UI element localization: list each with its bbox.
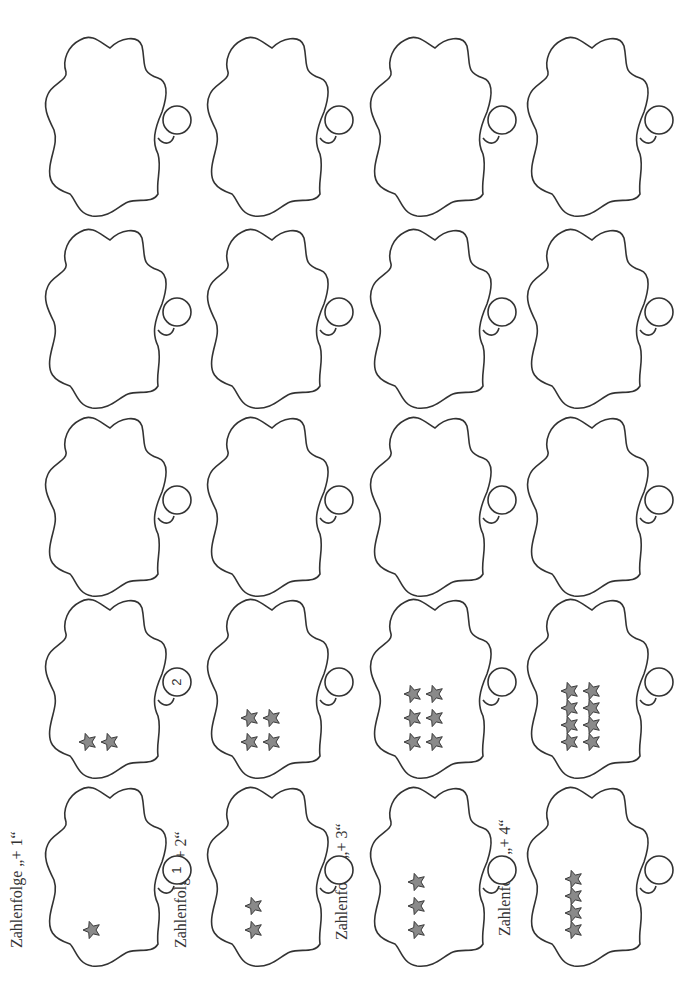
cloud-shape bbox=[371, 417, 491, 596]
cloud-cell bbox=[192, 592, 352, 782]
cloud-cell bbox=[355, 592, 515, 782]
cloud-shape bbox=[46, 599, 166, 778]
cloud-cell bbox=[512, 222, 672, 412]
number-bubble[interactable] bbox=[645, 486, 673, 514]
bubble-tail bbox=[640, 886, 656, 893]
cloud-shape bbox=[46, 787, 166, 966]
cloud-shape bbox=[208, 787, 328, 966]
number-bubble[interactable] bbox=[645, 668, 673, 696]
cloud-cell bbox=[192, 30, 352, 220]
bubble-tail bbox=[483, 886, 499, 893]
star-icon bbox=[404, 685, 420, 702]
cloud-shape bbox=[46, 417, 166, 596]
cloud-shape bbox=[528, 229, 648, 408]
number-bubble[interactable] bbox=[163, 298, 191, 326]
bubble-tail bbox=[483, 136, 499, 143]
cloud-cell: 2 bbox=[30, 592, 190, 782]
cloud-cell bbox=[192, 222, 352, 412]
star-icon bbox=[408, 921, 424, 938]
cloud-shape bbox=[528, 787, 648, 966]
star-icon bbox=[83, 921, 99, 938]
bubble-tail bbox=[158, 698, 174, 705]
star-icon bbox=[245, 921, 261, 938]
number-bubble[interactable] bbox=[325, 106, 353, 134]
star-icon bbox=[241, 733, 257, 750]
star-icon bbox=[561, 716, 577, 733]
star-icon bbox=[241, 709, 257, 726]
star-icon bbox=[583, 716, 599, 733]
cloud-cell bbox=[30, 222, 190, 412]
bubble-tail bbox=[158, 516, 174, 523]
star-icon bbox=[245, 897, 261, 914]
cloud-cell bbox=[355, 30, 515, 220]
cloud-cell bbox=[512, 592, 672, 782]
number-bubble[interactable] bbox=[645, 106, 673, 134]
bubble-number: 1 bbox=[169, 866, 184, 873]
star-icon bbox=[561, 682, 577, 699]
worksheet-page: Zahlenfolge „+ 1“ Zahlenfolge „+ 2“ Zahl… bbox=[0, 0, 678, 989]
bubble-tail bbox=[640, 136, 656, 143]
bubble-number: 2 bbox=[169, 678, 184, 685]
number-bubble[interactable] bbox=[325, 298, 353, 326]
cloud-cell bbox=[192, 780, 352, 970]
cloud-shape bbox=[208, 37, 328, 216]
bubble-tail bbox=[320, 516, 336, 523]
bubble-tail bbox=[320, 698, 336, 705]
cloud-shape bbox=[208, 417, 328, 596]
cloud-cell bbox=[512, 780, 672, 970]
bubble-tail bbox=[158, 328, 174, 335]
star-icon bbox=[101, 733, 117, 750]
star-icon bbox=[404, 733, 420, 750]
cloud-cell bbox=[355, 410, 515, 600]
star-icon bbox=[426, 733, 442, 750]
bubble-tail bbox=[640, 516, 656, 523]
number-bubble[interactable] bbox=[325, 486, 353, 514]
cloud-cell bbox=[512, 30, 672, 220]
cloud-shape bbox=[371, 229, 491, 408]
cloud-cell bbox=[512, 410, 672, 600]
cloud-shape bbox=[528, 37, 648, 216]
cloud-cell bbox=[355, 222, 515, 412]
star-icon bbox=[263, 709, 279, 726]
star-icon bbox=[561, 733, 577, 750]
bubble-tail bbox=[320, 136, 336, 143]
cloud-shape bbox=[46, 37, 166, 216]
number-bubble[interactable] bbox=[645, 856, 673, 884]
number-bubble[interactable] bbox=[163, 106, 191, 134]
cloud-shape bbox=[528, 417, 648, 596]
bubble-tail bbox=[483, 698, 499, 705]
star-icon bbox=[565, 904, 581, 921]
bubble-tail bbox=[483, 328, 499, 335]
cloud-shape bbox=[46, 229, 166, 408]
bubble-tail bbox=[640, 328, 656, 335]
bubble-tail bbox=[640, 698, 656, 705]
star-icon bbox=[404, 709, 420, 726]
star-icon bbox=[426, 709, 442, 726]
cloud-cell bbox=[30, 30, 190, 220]
row-label-plus-1: Zahlenfolge „+ 1“ bbox=[8, 831, 26, 948]
star-icon bbox=[583, 699, 599, 716]
cloud-shape bbox=[208, 229, 328, 408]
star-icon bbox=[565, 887, 581, 904]
star-icon bbox=[561, 699, 577, 716]
star-icon bbox=[565, 921, 581, 938]
cloud-shape bbox=[371, 599, 491, 778]
cloud-cell bbox=[192, 410, 352, 600]
number-bubble[interactable] bbox=[163, 486, 191, 514]
star-icon bbox=[408, 897, 424, 914]
cloud-cell: 1 bbox=[30, 780, 190, 970]
bubble-tail bbox=[158, 886, 174, 893]
star-icon bbox=[583, 733, 599, 750]
number-bubble[interactable] bbox=[325, 856, 353, 884]
cloud-shape bbox=[371, 787, 491, 966]
star-icon bbox=[583, 682, 599, 699]
number-bubble[interactable] bbox=[645, 298, 673, 326]
number-bubble[interactable] bbox=[325, 668, 353, 696]
bubble-tail bbox=[320, 886, 336, 893]
star-icon bbox=[565, 870, 581, 887]
star-icon bbox=[79, 733, 95, 750]
cloud-shape bbox=[208, 599, 328, 778]
star-icon bbox=[263, 733, 279, 750]
bubble-tail bbox=[158, 136, 174, 143]
star-icon bbox=[426, 685, 442, 702]
